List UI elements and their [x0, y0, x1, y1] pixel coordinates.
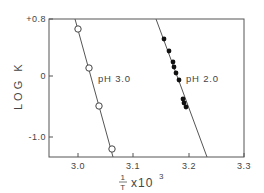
x-label-numerator: 1	[121, 173, 126, 182]
data-point	[172, 65, 177, 70]
fit-line-ph3	[75, 19, 113, 157]
series-label-ph3: pH 3.0	[98, 73, 131, 84]
y-axis-label: LOG K	[12, 61, 24, 110]
data-point	[174, 71, 179, 76]
y-tick-label: -1.0	[28, 132, 46, 142]
series-ph3-markers	[75, 26, 115, 152]
x-label-suffix: x10	[131, 176, 153, 190]
data-point	[75, 26, 81, 32]
data-point	[181, 97, 186, 102]
x-tick-label: 3.3	[237, 161, 251, 171]
x-tick-label: 3.0	[71, 161, 85, 171]
y-tick-label: +0.8	[26, 14, 46, 24]
data-point	[109, 146, 115, 152]
series-ph2-markers	[162, 37, 189, 110]
data-point	[184, 105, 189, 110]
chart-canvas: +0.8 0 -1.0 LOG K 3.0 3.1 3.2 3.3 1 T x1…	[0, 0, 264, 193]
x-tick-label: 3.2	[182, 161, 196, 171]
data-point	[177, 78, 182, 83]
y-axis: +0.8 0 -1.0 LOG K	[12, 14, 53, 142]
x-axis: 3.0 3.1 3.2 3.3 1 T x10 3	[71, 153, 251, 192]
x-label-exponent: 3	[159, 172, 164, 181]
x-axis-label: 1 T x10 3	[119, 172, 164, 192]
data-point	[86, 65, 92, 71]
data-point	[162, 37, 167, 42]
data-point	[167, 49, 172, 54]
x-tick-label: 3.1	[126, 161, 140, 171]
plot-frame	[49, 19, 244, 157]
series-label-ph2: pH 2.0	[186, 73, 219, 84]
x-label-denominator: T	[120, 183, 125, 192]
data-point	[171, 60, 176, 65]
y-tick-label: 0	[40, 71, 46, 81]
data-point	[96, 103, 102, 109]
